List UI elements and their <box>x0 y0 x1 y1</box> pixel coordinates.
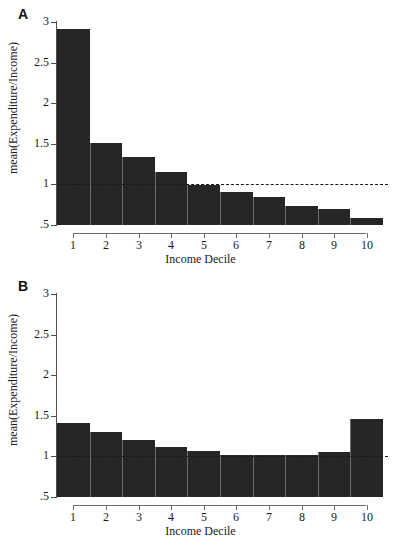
bar <box>350 218 383 225</box>
x-axis-tick-label: 1 <box>58 511 88 523</box>
bar-series-a <box>57 22 383 225</box>
panel-a: A mean(Expenditure/Income) Income Decile… <box>0 0 401 272</box>
y-axis-tick <box>51 63 57 64</box>
reference-line-b <box>57 456 388 457</box>
y-axis-tick <box>51 22 57 23</box>
bar <box>57 423 90 497</box>
y-axis-tick-label: 2.5 <box>7 328 49 340</box>
y-axis-tick-label: .5 <box>7 490 49 502</box>
bar-series-b <box>57 294 383 497</box>
x-axis-end-cap <box>367 505 368 510</box>
y-axis-tick-label: 1 <box>7 449 49 461</box>
bar <box>220 192 253 225</box>
bar <box>122 157 155 225</box>
y-axis-tick <box>51 335 57 336</box>
bar <box>57 29 90 226</box>
x-axis-title: Income Decile <box>0 253 401 265</box>
y-axis-tick-label: 2.5 <box>7 56 49 68</box>
bar <box>285 206 318 225</box>
x-axis-tick-label: 7 <box>254 239 284 251</box>
x-axis-line <box>73 233 366 234</box>
x-axis-tick-label: 6 <box>221 239 251 251</box>
y-axis-tick <box>51 184 57 185</box>
x-axis-end-cap <box>73 505 74 510</box>
y-axis-tick <box>51 456 57 457</box>
y-axis-tick <box>51 103 57 104</box>
x-axis-tick-label: 1 <box>58 239 88 251</box>
panel-b: B mean(Expenditure/Income) Income Decile… <box>0 272 401 544</box>
x-axis-tick-label: 8 <box>287 239 317 251</box>
bar <box>253 197 286 225</box>
y-axis-tick-label: 2 <box>7 96 49 108</box>
bar <box>220 455 253 497</box>
plot-area-a <box>57 22 383 225</box>
x-axis-tick-label: 5 <box>189 239 219 251</box>
x-axis-tick-label: 3 <box>124 511 154 523</box>
figure: A mean(Expenditure/Income) Income Decile… <box>0 0 401 545</box>
y-axis-tick-label: 3 <box>7 287 49 299</box>
y-axis-tick <box>51 416 57 417</box>
x-axis-tick-label: 7 <box>254 511 284 523</box>
y-axis-tick-label: 2 <box>7 368 49 380</box>
bar <box>318 452 351 497</box>
bar <box>350 419 383 497</box>
x-axis-tick-label: 2 <box>91 239 121 251</box>
bar <box>187 185 220 225</box>
y-axis-tick-label: 1.5 <box>7 409 49 421</box>
x-axis-tick-label: 8 <box>287 511 317 523</box>
x-axis-end-cap <box>73 233 74 238</box>
bar <box>318 209 351 225</box>
bar <box>155 172 188 225</box>
bar <box>285 455 318 497</box>
x-axis-tick-label: 4 <box>156 239 186 251</box>
plot-area-b <box>57 294 383 497</box>
bar <box>187 451 220 497</box>
y-axis-tick <box>51 144 57 145</box>
x-axis-tick-label: 6 <box>221 511 251 523</box>
x-axis-tick-label: 4 <box>156 511 186 523</box>
y-axis-tick-label: 1.5 <box>7 137 49 149</box>
x-axis-line <box>73 505 366 506</box>
bar <box>155 447 188 497</box>
x-axis-end-cap <box>367 233 368 238</box>
x-axis-tick-label: 10 <box>352 239 382 251</box>
y-axis-tick-label: 1 <box>7 177 49 189</box>
x-axis-tick-label: 10 <box>352 511 382 523</box>
reference-line-a <box>57 184 388 185</box>
bar <box>90 432 123 497</box>
bar <box>122 440 155 497</box>
x-axis-tick-label: 3 <box>124 239 154 251</box>
bar <box>253 455 286 497</box>
y-axis-tick <box>51 375 57 376</box>
y-axis-tick <box>51 497 57 498</box>
x-axis-tick-label: 9 <box>319 239 349 251</box>
x-axis-tick-label: 5 <box>189 511 219 523</box>
y-axis-tick <box>51 225 57 226</box>
x-axis-tick-label: 9 <box>319 511 349 523</box>
x-axis-tick-label: 2 <box>91 511 121 523</box>
x-axis-title: Income Decile <box>0 525 401 537</box>
y-axis-tick <box>51 294 57 295</box>
y-axis-tick-label: .5 <box>7 218 49 230</box>
y-axis-tick-label: 3 <box>7 15 49 27</box>
